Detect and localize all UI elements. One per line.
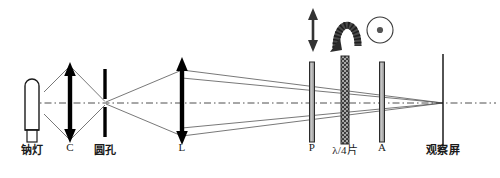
label-sodium-lamp: 钠灯 bbox=[21, 141, 43, 157]
label-condenser-lens-c: C bbox=[66, 141, 74, 153]
label-observation-screen: 观察屏 bbox=[426, 141, 460, 157]
label-quarter-wave-plate: λ/4片 bbox=[332, 141, 358, 157]
label-objective-lens-l: L bbox=[179, 141, 186, 153]
polarizer-p bbox=[310, 62, 315, 142]
linear-polarization-icon bbox=[308, 8, 318, 52]
quarter-wave-plate bbox=[341, 56, 349, 144]
sodium-lamp bbox=[25, 79, 39, 142]
label-pinhole: 圆孔 bbox=[94, 141, 116, 157]
analyzer-a bbox=[380, 62, 385, 142]
circular-polarization-icon bbox=[330, 25, 358, 52]
axial-polarization-icon bbox=[367, 17, 393, 43]
optics-canvas bbox=[0, 0, 500, 178]
optics-diagram: 钠灯 C 圆孔 L P λ/4片 A 观察屏 bbox=[0, 0, 500, 178]
label-analyzer-a: A bbox=[378, 141, 386, 153]
label-polarizer-p: P bbox=[309, 141, 315, 153]
condenser-lens-c bbox=[64, 62, 76, 143]
objective-lens-l bbox=[176, 57, 188, 145]
